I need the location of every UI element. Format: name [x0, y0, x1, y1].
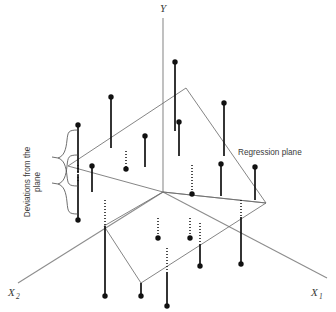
deviations-label-line2: plane — [33, 172, 42, 192]
observation-point — [189, 191, 194, 196]
observation-point — [252, 164, 257, 169]
x1-axis-subscript: 1 — [319, 292, 323, 301]
observation-point — [155, 235, 160, 240]
observation-point — [75, 122, 80, 127]
observation-point — [176, 119, 181, 124]
observation-point — [172, 59, 177, 64]
x1-axis-label: X — [310, 286, 319, 298]
y-axis-label: Y — [160, 2, 168, 14]
x1-axis-line — [163, 192, 327, 278]
deviations-brace — [52, 130, 78, 214]
brace-lower-path — [58, 155, 78, 214]
brace-pointer-upper — [52, 157, 58, 158]
observation-point — [238, 261, 243, 266]
regression-plane-label: Regression plane — [238, 148, 302, 157]
brace-pointer-lower — [52, 183, 58, 184]
deviations-label-group: Deviations from the plane — [23, 146, 42, 217]
observation-point — [218, 161, 223, 166]
x2-axis-line — [18, 192, 163, 283]
observation-point — [75, 217, 80, 222]
figure-canvas: Y X 1 X 2 Regression plane Deviations fr… — [0, 0, 336, 312]
observation-stems-group — [75, 59, 257, 308]
observation-point — [221, 100, 226, 105]
observation-point — [123, 166, 128, 171]
regression-plane-figure: Y X 1 X 2 Regression plane Deviations fr… — [0, 0, 336, 312]
x2-axis-subscript: 2 — [16, 292, 20, 301]
brace-upper-path — [58, 130, 78, 186]
regression-plane — [68, 88, 266, 203]
observation-point — [102, 293, 107, 298]
observation-point — [164, 303, 169, 308]
observation-point — [142, 133, 147, 138]
observation-point — [187, 235, 192, 240]
observation-point — [89, 163, 94, 168]
observation-point — [197, 263, 202, 268]
x2-axis-label: X — [7, 286, 16, 298]
deviations-label-line1: Deviations from the — [23, 146, 32, 217]
observation-point — [138, 293, 143, 298]
observation-point — [108, 94, 113, 99]
